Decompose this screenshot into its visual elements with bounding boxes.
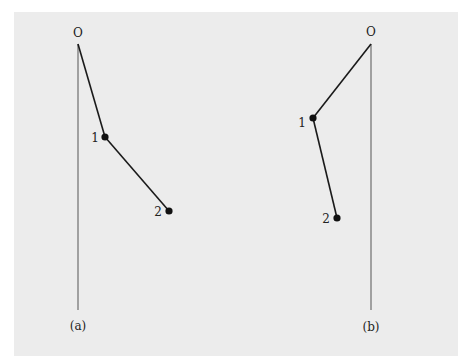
bob-1-label: 1	[298, 116, 306, 130]
rod-2	[105, 137, 169, 211]
bob-2	[333, 214, 340, 221]
caption-b: (b)	[362, 320, 379, 334]
pivot-label: O	[366, 25, 376, 39]
bob-1	[101, 133, 108, 140]
bob-2-label: 2	[154, 205, 162, 219]
panel-a: O 1 2 (a)	[70, 26, 173, 333]
bob-2-label: 2	[322, 212, 330, 226]
caption-a: (a)	[70, 319, 87, 333]
rod-1	[313, 44, 371, 118]
panel-b: O 1 2 (b)	[298, 25, 379, 334]
rod-1	[78, 44, 105, 137]
double-pendulum-diagram: O 1 2 (a) O 1 2 (b)	[0, 0, 473, 356]
bob-1-label: 1	[91, 131, 99, 145]
rod-2	[313, 118, 337, 218]
bob-2	[165, 207, 172, 214]
bob-1	[309, 114, 316, 121]
pivot-label: O	[73, 26, 83, 40]
